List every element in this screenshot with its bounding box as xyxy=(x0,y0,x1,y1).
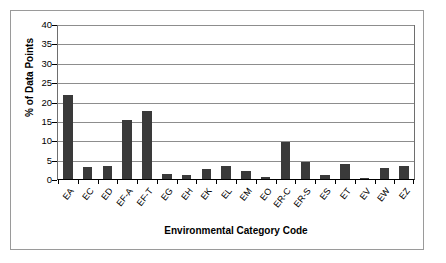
x-axis-tick-label: EL xyxy=(219,186,234,201)
x-axis-tick-label: EO xyxy=(258,186,274,202)
y-axis-tick-mark xyxy=(52,180,57,181)
x-axis-tick-label: EM xyxy=(238,186,254,203)
bar-slot xyxy=(196,25,216,179)
bar-slot xyxy=(256,25,276,179)
bar xyxy=(221,166,230,179)
x-axis-tick-label: EK xyxy=(199,186,214,202)
bar xyxy=(281,142,290,179)
x-axis-label-slot: EZ xyxy=(394,184,414,216)
x-axis-tick-label: ET xyxy=(338,186,353,201)
x-axis-tick-label: EF-T xyxy=(135,186,155,208)
bar xyxy=(301,162,310,179)
bar-series xyxy=(58,25,414,179)
x-axis-label-slot: EA xyxy=(58,184,78,216)
bar-slot xyxy=(58,25,78,179)
y-axis-tick-marks xyxy=(0,25,57,180)
bar xyxy=(320,175,329,179)
x-axis-label-slot: EL xyxy=(216,184,236,216)
chart-figure: % of Data Points 4035302520151050 EAECED… xyxy=(0,0,446,263)
bar xyxy=(340,164,349,179)
x-axis-tick-label: ER-S xyxy=(292,186,313,209)
x-axis-label-slot: EF-A xyxy=(117,184,137,216)
x-axis-tick-label: EZ xyxy=(397,186,412,201)
x-axis-label-slot: ES xyxy=(315,184,335,216)
x-axis-tick-label: EF-A xyxy=(115,186,136,208)
x-axis-tick-label: EW xyxy=(375,186,392,204)
x-axis-label-slot: EV xyxy=(355,184,375,216)
x-axis-label-slot: EH xyxy=(177,184,197,216)
bar xyxy=(142,111,151,179)
bar xyxy=(399,166,408,179)
bar xyxy=(103,166,112,179)
bar-slot xyxy=(335,25,355,179)
bar xyxy=(380,168,389,179)
x-axis-tick-label: EC xyxy=(80,186,96,202)
bar-slot xyxy=(295,25,315,179)
x-axis-tick-label: ER-C xyxy=(272,186,293,209)
bar xyxy=(63,95,72,179)
bar xyxy=(261,177,270,179)
x-axis-label-slot: EC xyxy=(78,184,98,216)
x-axis-title: Environmental Category Code xyxy=(57,225,415,236)
x-axis-label-slot: EF-T xyxy=(137,184,157,216)
x-axis-tick-label: ED xyxy=(100,186,116,202)
bar xyxy=(182,175,191,179)
x-axis-label-slot: EK xyxy=(196,184,216,216)
bar xyxy=(202,169,211,179)
x-axis-tick-label: EH xyxy=(179,186,195,202)
bar-slot xyxy=(355,25,375,179)
bar-slot xyxy=(315,25,335,179)
bar-slot xyxy=(216,25,236,179)
x-axis-tick-label: EG xyxy=(159,186,175,202)
x-axis-tick-labels: EAECEDEF-AEF-TEGEHEKELEMEOER-CER-SESETEV… xyxy=(58,184,414,216)
x-axis-label-slot: ET xyxy=(335,184,355,216)
bar-slot xyxy=(276,25,296,179)
x-axis-label-slot: ER-S xyxy=(295,184,315,216)
bar-slot xyxy=(157,25,177,179)
bar-slot xyxy=(177,25,197,179)
bar xyxy=(83,167,92,179)
bar xyxy=(241,171,250,179)
bar xyxy=(162,174,171,179)
bar-slot xyxy=(394,25,414,179)
bar xyxy=(360,178,369,179)
x-axis-label-slot: EM xyxy=(236,184,256,216)
bar-slot xyxy=(236,25,256,179)
bar-slot xyxy=(117,25,137,179)
bar-slot xyxy=(98,25,118,179)
bar xyxy=(122,120,131,179)
x-axis-tick-label: EA xyxy=(60,186,75,202)
x-axis-tick-label: EV xyxy=(357,186,372,202)
x-axis-label-slot: EW xyxy=(375,184,395,216)
bar-slot xyxy=(137,25,157,179)
x-axis-tick-label: ES xyxy=(318,186,333,202)
x-axis-label-slot: EG xyxy=(157,184,177,216)
bar-slot xyxy=(78,25,98,179)
bar-slot xyxy=(375,25,395,179)
